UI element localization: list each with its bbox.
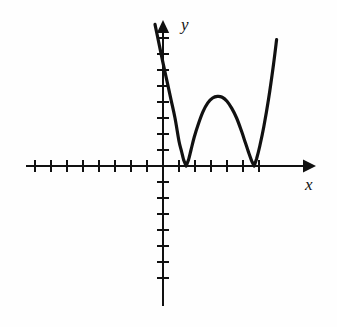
coordinate-plane-svg	[0, 0, 337, 327]
y-axis-arrow-icon	[157, 20, 169, 33]
graph-figure: y x	[0, 0, 337, 327]
x-axis-arrow-icon	[303, 160, 316, 173]
x-axis-label: x	[305, 176, 313, 193]
y-axis-label: y	[181, 16, 189, 33]
function-curve	[155, 24, 277, 166]
